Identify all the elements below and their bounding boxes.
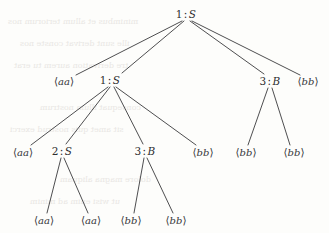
tree-leaf-bb: ⟨bb⟩ <box>165 215 186 226</box>
tree-node-3-B: 3:B <box>260 76 281 87</box>
angle-bracket-close: ⟩ <box>252 146 256 158</box>
tree-leaf-aa: ⟨aa⟩ <box>81 215 101 226</box>
tree-edges <box>0 0 329 233</box>
angle-bracket-close: ⟩ <box>300 146 304 158</box>
node-index: 1 <box>100 74 107 86</box>
tree-edge <box>116 87 196 145</box>
tree-leaf-bb: ⟨bb⟩ <box>235 147 256 158</box>
tree-edge <box>147 158 173 213</box>
terminal-text: bb <box>302 76 315 87</box>
node-symbol: B <box>273 75 281 87</box>
angle-bracket-close: ⟩ <box>97 214 101 226</box>
terminal-text: bb <box>197 147 210 158</box>
tree-diagram-canvas: minimbus et allum teriorum nos ille sunt… <box>0 0 329 233</box>
tree-edge <box>134 158 144 213</box>
tree-edge <box>31 87 108 145</box>
tree-edge <box>64 158 88 213</box>
tree-leaf-bb: ⟨bb⟩ <box>297 76 318 87</box>
node-index: 2 <box>52 145 59 157</box>
tree-edge <box>47 158 61 213</box>
tree-edge <box>248 88 268 145</box>
tree-leaf-aa: ⟨aa⟩ <box>34 215 54 226</box>
tree-edge <box>190 21 264 74</box>
node-symbol: S <box>113 74 120 86</box>
angle-bracket-close: ⟩ <box>50 214 54 226</box>
terminal-text: bb <box>170 215 183 226</box>
angle-bracket-close: ⟩ <box>209 146 213 158</box>
tree-edge <box>272 88 290 145</box>
angle-bracket-close: ⟩ <box>314 75 318 87</box>
tree-leaf-bb: ⟨bb⟩ <box>283 147 304 158</box>
angle-bracket-close: ⟩ <box>70 75 74 87</box>
terminal-text: aa <box>58 76 70 87</box>
tree-leaf-aa: ⟨aa⟩ <box>13 147 33 158</box>
angle-bracket-close: ⟩ <box>137 214 141 226</box>
node-index: 3 <box>135 145 142 157</box>
node-index: 3 <box>260 75 267 87</box>
terminal-text: aa <box>38 215 50 226</box>
tree-edge <box>192 21 300 75</box>
tree-node-2-S: 2:S <box>52 146 72 157</box>
angle-bracket-close: ⟩ <box>29 146 33 158</box>
tree-leaf-bb: ⟨bb⟩ <box>120 215 141 226</box>
terminal-text: aa <box>85 215 97 226</box>
tree-leaf-bb: ⟨bb⟩ <box>192 147 213 158</box>
node-symbol: S <box>65 145 72 157</box>
terminal-text: aa <box>17 147 29 158</box>
tree-node-1-S: 1:S <box>100 75 120 86</box>
tree-leaf-aa: ⟨aa⟩ <box>54 76 74 87</box>
tree-node-1-S: 1:S <box>176 9 196 20</box>
terminal-text: bb <box>288 147 301 158</box>
tree-node-3-B: 3:B <box>135 146 156 157</box>
terminal-text: bb <box>240 147 253 158</box>
angle-bracket-close: ⟩ <box>182 214 186 226</box>
tree-edge <box>66 87 110 144</box>
node-symbol: S <box>189 8 196 20</box>
node-index: 1 <box>176 8 183 20</box>
terminal-text: bb <box>125 215 138 226</box>
node-symbol: B <box>148 145 156 157</box>
